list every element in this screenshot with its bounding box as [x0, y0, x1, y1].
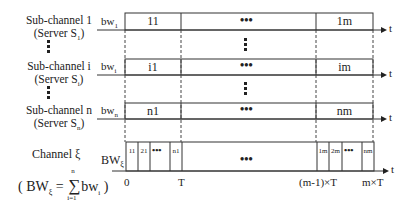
sub-channel-n-label: Sub-channel n (Server Sn) [18, 104, 100, 135]
server-text: (Server S [34, 27, 77, 39]
bw-i-label: bwi [101, 60, 116, 75]
vertical-ellipsis-icon [244, 82, 247, 97]
server-label: (Server Sn) [18, 117, 100, 135]
cell-1m: 1m [317, 147, 329, 155]
t-axis-label-channel: t [391, 163, 394, 175]
bw-text: bw [101, 104, 114, 116]
formula-close: ) [104, 179, 109, 194]
tick-m-minus-1-T: (m-1)×T [299, 176, 337, 188]
bandwidth-formula: ( BWξ = n ∑ i=1 bwi ) [18, 176, 108, 197]
server-label: (Server S1) [18, 27, 100, 45]
bw-text: bw [101, 15, 114, 27]
sub-channel-i-label: Sub-channel i (Server Si) [18, 60, 100, 91]
row-1-ellipsis: ••• [240, 13, 253, 28]
formula-bw: ( BW [18, 179, 49, 194]
sum-symbol: n ∑ i=1 [67, 176, 81, 196]
cell-11: 11 [126, 147, 138, 155]
bw-subscript: n [114, 111, 118, 119]
bw-text: BW [101, 153, 120, 167]
formula-term-subscript: i [98, 189, 100, 197]
cell-21: 21 [138, 147, 150, 155]
slot-n1: n1 [125, 104, 181, 119]
vertical-ellipsis-icon [47, 86, 50, 101]
close-paren: ) [80, 73, 84, 85]
sub-channel-1-label: Sub-channel 1 (Server S1) [18, 14, 100, 45]
cell-n1: n1 [170, 147, 182, 155]
slot-i1: i1 [125, 60, 181, 75]
close-paren: ) [80, 117, 84, 129]
bw-n-label: bwn [101, 104, 118, 119]
slot-1m: 1m [316, 14, 373, 29]
sub-channel-name: Sub-channel 1 [18, 14, 100, 27]
vertical-ellipsis-icon [244, 38, 247, 53]
sum-lower: i=1 [67, 194, 76, 202]
slot-im: im [316, 60, 373, 75]
sigma-icon: ∑ [68, 176, 80, 195]
slot-11: 11 [125, 14, 181, 29]
channel-ellipsis: ••• [240, 152, 253, 167]
cell-ellipsis: ••• [344, 145, 353, 155]
server-text: (Server S [35, 73, 78, 85]
tick-T: T [178, 176, 185, 188]
vertical-ellipsis-icon [47, 40, 50, 55]
cell-ellipsis: ••• [152, 145, 161, 155]
sub-channel-name: Sub-channel i [18, 60, 100, 73]
channel-bw-label: BWξ [101, 153, 124, 169]
sum-upper: n [71, 167, 75, 175]
bw-subscript: i [114, 67, 116, 75]
channel-label: Channel ξ [32, 148, 80, 161]
server-text: (Server S [34, 117, 77, 129]
cell-2m: 2m [329, 147, 342, 155]
t-axis-label-1: t [389, 22, 392, 34]
tick-m-T: m×T [362, 176, 383, 188]
formula-bw-subscript: ξ [49, 188, 53, 197]
bw-subscript: 1 [114, 22, 118, 30]
formula-term: bw [81, 179, 98, 194]
slot-nm: nm [316, 104, 373, 119]
formula-equals: = [56, 179, 64, 194]
close-paren: ) [80, 27, 84, 39]
sub-channel-name: Sub-channel n [18, 104, 100, 117]
bw-1-label: bw1 [101, 15, 118, 30]
t-axis-label-n: t [389, 111, 392, 123]
tick-0: 0 [124, 176, 130, 188]
bw-text: bw [101, 60, 114, 72]
row-n-ellipsis: ••• [240, 102, 253, 117]
cell-nm: nm [362, 147, 374, 155]
row-i-ellipsis: ••• [240, 58, 253, 73]
bw-subscript: ξ [120, 160, 124, 169]
t-axis-label-i: t [389, 67, 392, 79]
server-label: (Server Si) [18, 73, 100, 91]
